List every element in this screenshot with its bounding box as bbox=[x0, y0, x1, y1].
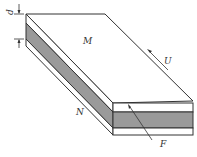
label-u: U bbox=[164, 56, 172, 66]
arrowhead-down-icon bbox=[18, 10, 21, 14]
arrowhead-up-icon bbox=[18, 39, 21, 43]
label-d: d bbox=[5, 9, 15, 15]
arrowhead-velocity-icon bbox=[147, 49, 152, 53]
label-n: N bbox=[75, 107, 85, 117]
front-face-middle-layer bbox=[113, 112, 193, 128]
label-f: F bbox=[159, 139, 167, 149]
slab-diagram: d U F M N bbox=[0, 0, 197, 157]
label-m: M bbox=[82, 36, 93, 46]
front-face-bottom-layer bbox=[113, 128, 193, 135]
front-face-top-layer bbox=[113, 103, 193, 112]
